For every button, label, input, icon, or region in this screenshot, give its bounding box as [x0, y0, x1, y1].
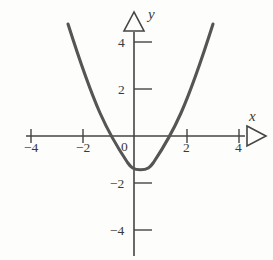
triangle-up-outline-icon — [124, 12, 144, 31]
triangle-right-outline-icon — [247, 126, 266, 146]
coordinate-plot — [0, 0, 273, 260]
y-axis-label: y — [148, 6, 155, 23]
x-axis-label: x — [249, 108, 256, 125]
x-tick-label-minus2: −2 — [76, 140, 90, 156]
x-tick-label-4: 4 — [235, 140, 242, 156]
x-tick-label-minus4: −4 — [24, 140, 38, 156]
parabola-figure-panel: ( x y −4 −2 2 4 0 — [0, 0, 273, 260]
y-tick-label-2: 2 — [118, 82, 125, 98]
y-tick-label-4: 4 — [118, 35, 125, 51]
y-tick-label-minus2: −2 — [110, 176, 124, 192]
x-tick-label-2: 2 — [183, 140, 190, 156]
y-tick-label-minus4: −4 — [110, 223, 124, 239]
origin-label: 0 — [121, 139, 128, 155]
